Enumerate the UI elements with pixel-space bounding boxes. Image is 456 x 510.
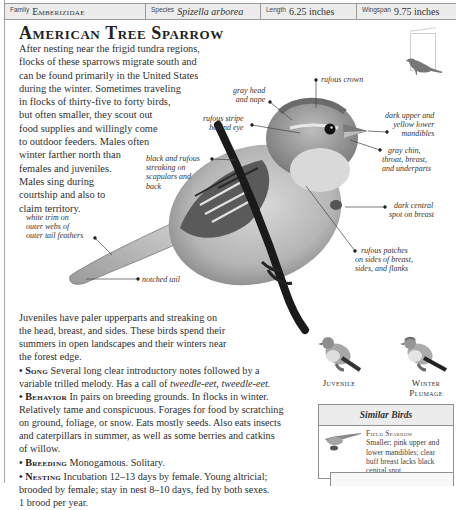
section-nesting: • Nesting Incubation 12–13 days by femal… [19,471,309,510]
callout-rufous-stripe: rufous stripebehind eye [203,114,244,132]
intro-line: can be found primarily in the United Sta… [19,69,239,82]
callout-dark-spot: dark centralspot on breast [389,201,434,219]
intro-line: After nesting near the frigid tundra reg… [19,42,239,55]
callout-rufous-crown: rufous crown [321,75,363,84]
song-heading: Song [25,365,48,376]
family-label: Family [10,6,29,13]
juvenile-label: Juvenile [314,378,364,388]
family-cell: Family Emberizidae [5,4,146,19]
intro-line: during the winter. Sometimes traveling [19,82,239,95]
similar-bird-name: Field Sparrow [366,429,453,438]
species-header: Family Emberizidae Species Spizella arbo… [4,3,456,20]
wingspan-value: 9.75 inches [394,6,440,17]
field-sparrow-icon [323,431,363,453]
juvenile-paragraph: Juveniles have paler upperparts and stre… [19,312,309,364]
behavior-heading: Behavior [25,391,67,402]
length-label: Length [266,6,286,13]
intro-line: females and juveniles. [19,162,239,175]
species-details: Juveniles have paler upperparts and stre… [19,312,309,510]
winter-plumage-bird-icon [400,334,448,374]
bird-silhouette-icon [405,56,445,78]
callout-gray-chin: gray chin,throat, breast,and underparts [382,146,431,174]
callout-white-trim: white trim onouter webs ofouter tail fea… [26,213,83,241]
intro-line: courtship and also to [19,188,239,201]
callout-gray-head: gray headand nape [233,86,265,104]
intro-line: flocks of these sparrows migrate south a… [19,55,239,68]
species-cell: Species Spizella arborea [146,4,261,19]
callout-rufous-patches: rufous patcheson sides of breast,sides, … [355,246,413,274]
intro-line: Males sing during [19,175,239,188]
callout-mandibles: dark upper andyellow lowermandibles [385,111,434,139]
intro-line: in flocks of thirty-five to forty birds, [19,95,239,108]
page-title: American Tree Sparrow [19,23,224,44]
breeding-heading: Breeding [25,457,67,468]
section-breeding: • Breeding Monogamous. Solitary. [19,457,309,470]
wingspan-label: Wingspan [362,6,391,13]
intro-line: to outdoor feeders. Males often [19,135,239,148]
similar-bird-entry: Field Sparrow Smaller; pink upper and lo… [319,426,453,475]
length-value: 6.25 inches [289,6,335,17]
nesting-heading: Nesting [25,471,61,482]
flight-pattern-box [330,472,454,486]
section-song: • Song Several long clear introductory n… [19,365,309,391]
similar-birds-box: Similar Birds Field Sparrow Smaller; pin… [318,404,454,479]
family-value: Emberizidae [32,6,85,17]
species-label: Species [151,6,174,13]
intro-line: winter farther north than [19,148,239,161]
juvenile-bird-icon [318,334,362,374]
section-behavior: • Behavior In pairs on breeding grounds.… [19,391,309,456]
callout-black-rufous-streaking: black and rufousstreaking onscapulars an… [146,154,200,191]
wingspan-cell: Wingspan 9.75 inches [357,4,456,19]
callout-notched-tail: notched tail [142,275,180,284]
length-cell: Length 6.25 inches [261,4,357,19]
species-value: Spizella arborea [177,6,243,17]
similar-birds-heading: Similar Birds [319,405,453,426]
winter-plumage-label: WinterPlumage [398,378,454,398]
